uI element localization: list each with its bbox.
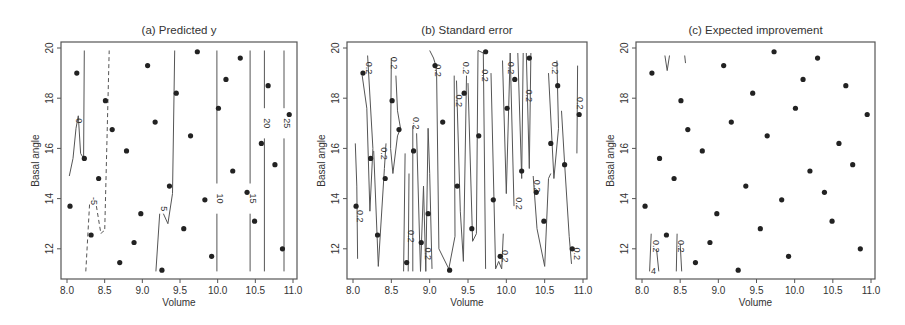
design-point [167, 183, 172, 188]
y-tick-label: 16 [330, 142, 341, 154]
x-tick-label: 10.5 [823, 285, 843, 296]
design-point [721, 63, 726, 68]
contour-label: 0.2 [355, 210, 365, 223]
design-point [462, 91, 467, 96]
design-point [822, 190, 827, 195]
panel-c: (c) Expected improvement8.08.59.09.510.0… [605, 24, 881, 308]
y-tick-label: 12 [330, 243, 341, 255]
x-tick-label: 9.0 [711, 285, 725, 296]
contour-label: 0.2 [389, 57, 399, 70]
design-point [287, 112, 292, 117]
design-point [786, 254, 791, 259]
x-tick-label: 8.0 [346, 285, 360, 296]
design-point [685, 127, 690, 132]
contour-line [503, 53, 515, 206]
x-axis-label: Volume [739, 297, 773, 308]
design-point [138, 211, 143, 216]
design-point [483, 49, 488, 54]
x-tick-label: 8.0 [635, 285, 649, 296]
design-point [829, 219, 834, 224]
contour-line [577, 66, 578, 154]
x-axis-label: Volume [450, 297, 484, 308]
x-tick-label: 9.5 [750, 285, 764, 296]
design-point [188, 133, 193, 138]
y-axis-label: Basal angle [30, 134, 41, 187]
contour-label: 0.2 [411, 117, 421, 130]
design-point [383, 176, 388, 181]
design-point [360, 71, 365, 76]
x-tick-label: 9.0 [135, 285, 149, 296]
x-tick-label: 10.5 [246, 285, 266, 296]
y-tick-label: 20 [44, 42, 55, 54]
design-point [505, 106, 510, 111]
contour-label: 0.2 [524, 89, 534, 102]
contour-label: 10 [215, 194, 225, 204]
contour-line [562, 111, 572, 264]
design-point [729, 119, 734, 124]
design-point [843, 83, 848, 88]
design-point [216, 106, 221, 111]
design-point [353, 204, 358, 209]
design-point [181, 226, 186, 231]
design-point [815, 55, 820, 60]
design-point [765, 133, 770, 138]
x-tick-label: 10.0 [208, 285, 228, 296]
x-tick-label: 10.0 [785, 285, 805, 296]
x-tick-label: 8.5 [673, 285, 687, 296]
design-point [491, 197, 496, 202]
y-tick-label: 18 [330, 92, 341, 104]
design-point [807, 168, 812, 173]
x-tick-label: 11.0 [284, 285, 303, 296]
contour-line [69, 51, 84, 177]
y-tick-label: 20 [330, 42, 341, 54]
design-point [153, 119, 158, 124]
design-point [469, 226, 474, 231]
y-tick-label: 16 [44, 142, 55, 154]
y-axis-label: Basal angle [605, 134, 616, 187]
design-point [714, 211, 719, 216]
contour-line [163, 51, 174, 224]
y-tick-label: 12 [44, 243, 55, 255]
contour-label: 0.2 [480, 69, 490, 82]
design-point [209, 254, 214, 259]
x-tick-label: 9.5 [173, 285, 187, 296]
design-point [117, 260, 122, 265]
contour-line [665, 56, 670, 71]
contour-line [430, 51, 455, 269]
contour-label: 0.2 [379, 147, 389, 160]
design-point [447, 268, 452, 273]
design-point [252, 219, 257, 224]
design-point [432, 63, 437, 68]
plot-frame [636, 42, 875, 279]
design-point [426, 211, 431, 216]
design-point [103, 98, 108, 103]
design-point [664, 232, 669, 237]
design-point [131, 240, 136, 245]
y-tick-label: 12 [619, 243, 630, 255]
contour-label: 0.2 [651, 240, 661, 253]
contour-label: 25 [282, 118, 292, 128]
contour-label: -5 [89, 197, 99, 205]
contour-line [96, 51, 109, 234]
contour-label: 5 [159, 206, 169, 211]
design-point [89, 232, 94, 237]
y-tick-label: 16 [619, 142, 630, 154]
design-point [244, 190, 249, 195]
x-tick-label: 10.5 [535, 285, 555, 296]
design-point [476, 133, 481, 138]
design-point [750, 91, 755, 96]
contour-line [156, 214, 160, 272]
x-axis-label: Volume [162, 297, 196, 308]
design-point [562, 162, 567, 167]
y-axis-label: Basal angle [316, 134, 327, 187]
contour-label: 0.2 [454, 94, 464, 107]
contour-label: 0.2 [423, 248, 433, 261]
contour-label: 0.2 [406, 230, 416, 243]
design-point [411, 148, 416, 153]
x-tick-label: 8.5 [384, 285, 398, 296]
contour-label: 0.2 [676, 240, 686, 253]
contour-label: 0 [74, 118, 84, 123]
plot-frame [61, 42, 297, 279]
design-point [865, 112, 870, 117]
contour-label: 0.2 [461, 62, 471, 75]
